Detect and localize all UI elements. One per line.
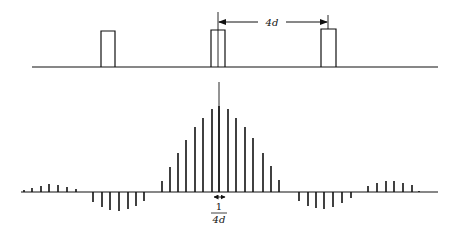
pulse-train — [32, 12, 438, 67]
period-label: 4d — [265, 17, 279, 28]
rect-pulse — [321, 29, 336, 67]
spacing-numerator: 1 — [216, 201, 222, 212]
sinc-spectrum — [21, 82, 438, 211]
period-annotation: 4d — [219, 17, 327, 28]
fourier-diagram: 4d 1 4d — [0, 0, 457, 235]
rect-pulse — [101, 31, 115, 67]
spacing-denominator: 4d — [212, 214, 226, 225]
spacing-annotation: 1 4d — [211, 197, 227, 225]
